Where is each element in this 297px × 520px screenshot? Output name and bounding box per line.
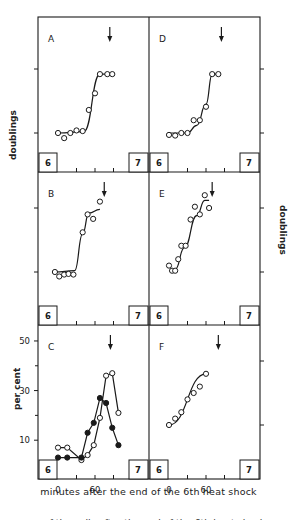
interval-box-6: 6 bbox=[150, 460, 168, 479]
data-point bbox=[166, 132, 171, 137]
data-point bbox=[74, 128, 79, 133]
series-open bbox=[52, 199, 102, 279]
data-point bbox=[203, 371, 208, 376]
data-point bbox=[55, 445, 60, 450]
data-point bbox=[104, 373, 109, 378]
data-point bbox=[206, 205, 211, 210]
data-point bbox=[92, 91, 97, 96]
panel-label: F bbox=[159, 342, 164, 352]
data-point bbox=[85, 452, 90, 457]
interval-box-6: 6 bbox=[39, 460, 57, 479]
data-point bbox=[55, 130, 60, 135]
caption-fragment: ...rs of the cells after the end of the … bbox=[0, 512, 297, 520]
data-point bbox=[65, 445, 70, 450]
data-point bbox=[203, 104, 208, 109]
svg-text:6: 6 bbox=[156, 311, 162, 321]
panel-e: E67 bbox=[150, 182, 264, 325]
data-point bbox=[179, 410, 184, 415]
data-point bbox=[197, 118, 202, 123]
svg-text:6: 6 bbox=[45, 158, 51, 168]
data-point bbox=[188, 217, 193, 222]
figure-canvas: A67D67B67E67C67103050060F67060 bbox=[0, 0, 297, 520]
svg-text:6: 6 bbox=[156, 465, 162, 475]
svg-text:6: 6 bbox=[45, 465, 51, 475]
data-point bbox=[91, 420, 96, 425]
data-point bbox=[85, 212, 90, 217]
data-point bbox=[80, 128, 85, 133]
data-point bbox=[173, 416, 178, 421]
y-axis-label-doublings-left: doublings bbox=[8, 110, 18, 160]
data-point bbox=[52, 269, 57, 274]
data-point bbox=[116, 410, 121, 415]
data-point bbox=[97, 199, 102, 204]
data-point bbox=[85, 430, 90, 435]
data-point bbox=[110, 371, 115, 376]
data-point bbox=[86, 107, 91, 112]
interval-box-7: 7 bbox=[129, 460, 148, 479]
series-open bbox=[166, 193, 211, 274]
y-axis-label-percent: per cent bbox=[12, 368, 22, 410]
interval-box-7: 7 bbox=[240, 306, 259, 325]
heat-shock-arrow-icon bbox=[102, 182, 107, 197]
y-tick-label: 10 bbox=[19, 435, 30, 445]
fit-curve bbox=[169, 200, 209, 270]
interval-box-6: 6 bbox=[150, 306, 168, 325]
svg-text:6: 6 bbox=[156, 158, 162, 168]
panel-a: A67 bbox=[34, 27, 148, 172]
data-point bbox=[62, 136, 67, 141]
data-point bbox=[202, 193, 207, 198]
data-point bbox=[97, 395, 102, 400]
data-point bbox=[110, 72, 115, 77]
data-point bbox=[110, 425, 115, 430]
data-point bbox=[179, 130, 184, 135]
data-point bbox=[116, 443, 121, 448]
data-point bbox=[192, 204, 197, 209]
heat-shock-arrow-icon bbox=[107, 27, 112, 42]
data-point bbox=[166, 263, 171, 268]
data-point bbox=[91, 443, 96, 448]
data-point bbox=[68, 130, 73, 135]
series-open bbox=[55, 72, 114, 141]
heat-shock-arrow-icon bbox=[108, 335, 113, 350]
panel-d: D67 bbox=[150, 27, 264, 172]
data-point bbox=[210, 72, 215, 77]
series-open bbox=[166, 72, 221, 139]
panel-b: B67 bbox=[34, 182, 148, 325]
data-point bbox=[176, 257, 181, 262]
heat-shock-arrow-icon bbox=[219, 27, 224, 42]
data-point bbox=[191, 390, 196, 395]
x-axis-title: minutes after the end of the 6th heat sh… bbox=[0, 486, 297, 497]
data-point bbox=[105, 72, 110, 77]
heat-shock-arrow-icon bbox=[210, 182, 215, 197]
data-point bbox=[197, 384, 202, 389]
data-point bbox=[97, 72, 102, 77]
panel-label: D bbox=[159, 34, 166, 44]
svg-text:7: 7 bbox=[135, 311, 141, 321]
svg-text:7: 7 bbox=[246, 465, 252, 475]
data-point bbox=[79, 455, 84, 460]
svg-text:7: 7 bbox=[246, 311, 252, 321]
interval-box-6: 6 bbox=[39, 153, 57, 172]
svg-text:6: 6 bbox=[45, 311, 51, 321]
series-open bbox=[166, 371, 208, 427]
data-point bbox=[97, 415, 102, 420]
data-point bbox=[91, 216, 96, 221]
panel-label: C bbox=[48, 342, 54, 352]
data-point bbox=[216, 72, 221, 77]
fit-curve bbox=[169, 74, 218, 133]
interval-box-6: 6 bbox=[150, 153, 168, 172]
data-point bbox=[191, 118, 196, 123]
interval-box-7: 7 bbox=[240, 153, 259, 172]
data-point bbox=[71, 272, 76, 277]
data-point bbox=[166, 422, 171, 427]
data-point bbox=[104, 400, 109, 405]
y-tick-label: 50 bbox=[19, 336, 30, 346]
interval-box-7: 7 bbox=[129, 153, 148, 172]
data-point bbox=[66, 271, 71, 276]
svg-text:7: 7 bbox=[246, 158, 252, 168]
panel-label: A bbox=[48, 34, 55, 44]
svg-text:7: 7 bbox=[135, 465, 141, 475]
panel-label: B bbox=[48, 189, 54, 199]
data-point bbox=[80, 230, 85, 235]
y-axis-label-doublings-right: doublings bbox=[278, 205, 288, 255]
